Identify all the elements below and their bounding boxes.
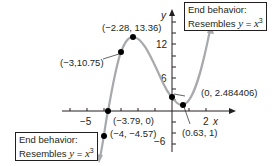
point-neg3 [118, 49, 124, 55]
y-axis [172, 14, 176, 152]
point-neg4 [101, 133, 107, 139]
x-tick-2: 2 [203, 116, 209, 127]
y-tick-12: 12 [156, 39, 168, 50]
label-y-intercept: (0, 2.484406) [201, 87, 258, 98]
point-local-min [180, 102, 186, 108]
end-behavior-box-top: End behavior: Resembles y = x3 [184, 2, 267, 31]
x-tick-neg5: −5 [80, 116, 92, 127]
x-axis-arrow-icon [229, 108, 236, 114]
end-behavior-box-bottom: End behavior: Resembles y = x3 [15, 132, 98, 161]
label-local-max: (−2.28, 13.36) [102, 22, 161, 33]
leader-lines [103, 54, 190, 124]
x-axis-label: x [212, 116, 219, 127]
point-y-intercept [169, 94, 175, 100]
y-axis-arrow-icon [169, 9, 175, 16]
box-bottom-line1: End behavior: [19, 134, 94, 145]
box-bottom-line2: Resembles y = x3 [19, 145, 94, 159]
box-top-line1: End behavior: [188, 4, 263, 15]
label-local-min: (0.63, 1) [182, 127, 217, 138]
box-top-line2: Resembles y = x3 [188, 15, 263, 29]
label-root: (−3.79, 0) [113, 115, 154, 126]
x-axis [62, 108, 232, 111]
label-neg3: (−3,10.75) [60, 57, 104, 68]
label-neg4: (−4, −4.57) [110, 128, 156, 139]
y-axis-label: y [160, 10, 167, 21]
point-root [105, 108, 111, 114]
point-local-max [130, 34, 136, 40]
